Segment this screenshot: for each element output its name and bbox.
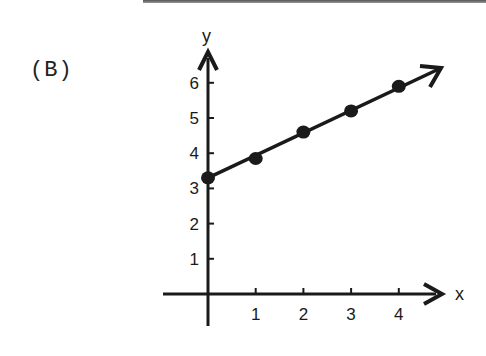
x-tick-label: 3 — [346, 305, 355, 324]
axes — [163, 52, 442, 326]
data-point — [201, 171, 215, 184]
data-point — [249, 152, 263, 165]
y-tick-label: 1 — [190, 250, 199, 269]
y-tick-label: 3 — [190, 179, 199, 198]
x-tick-label: 2 — [299, 305, 308, 324]
data-point — [344, 104, 358, 117]
trend-line — [208, 68, 441, 178]
y-axis-label: y — [202, 26, 211, 46]
data-point — [296, 126, 310, 139]
y-tick-label: 4 — [190, 144, 199, 163]
x-tick-label: 1 — [251, 305, 260, 324]
ticks: 1234123456 — [190, 74, 404, 324]
data-point — [392, 80, 406, 93]
y-tick-label: 6 — [190, 74, 199, 93]
y-tick-label: 2 — [190, 215, 199, 234]
x-tick-label: 4 — [394, 305, 403, 324]
data-series — [201, 66, 441, 184]
x-axis-label: x — [455, 284, 464, 304]
line-chart: 1234123456 x y — [0, 0, 486, 356]
y-tick-label: 5 — [190, 109, 199, 128]
